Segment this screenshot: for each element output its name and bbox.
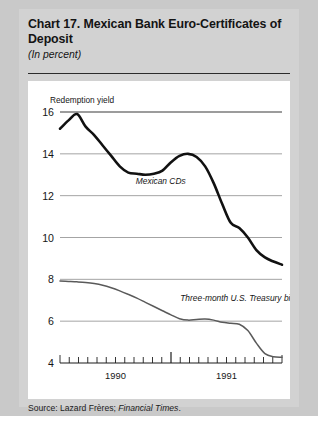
y-tick-label: 10 [42,232,54,244]
chart-figure: Chart 17. Mexican Bank Euro-Certificates… [0,0,318,416]
source-publication: Financial Times [118,403,178,413]
gridlines [60,112,282,321]
data-series-group [60,114,282,357]
title-block: Chart 17. Mexican Bank Euro-Certificates… [28,17,292,61]
y-axis-caption: Redemption yield [50,95,114,105]
chart-inner-card: Chart 17. Mexican Bank Euro-Certificates… [19,9,299,407]
x-axis-ticks [60,352,282,363]
y-tick-label: 14 [42,148,54,160]
source-suffix: . [178,403,180,413]
chart-subtitle: (In percent) [28,49,292,61]
y-tick-label: 8 [48,273,54,285]
source-prefix: Source: Lazard Frères; [28,403,118,413]
y-tick-label: 6 [48,315,54,327]
page-title: Chart 17. Mexican Bank Euro-Certificates… [28,17,292,47]
source-note: Source: Lazard Frères; Financial Times. [28,403,181,413]
series-label-mexican-cds: Mexican CDs [136,176,187,186]
y-tick-label: 16 [42,106,54,118]
x-axis-tick-labels: 19901991 [105,370,237,381]
title-divider [28,73,290,74]
series-line-mexican-cds [60,114,282,265]
y-tick-label: 12 [42,190,54,202]
line-chart: 46810121416 19901991 Redemption yield Me… [28,81,290,399]
y-axis-tick-labels: 46810121416 [42,106,54,369]
x-tick-label: 1990 [105,370,126,381]
y-tick-label: 4 [48,357,54,369]
x-tick-label: 1991 [216,370,237,381]
series-label-treasury-bill: Three-month U.S. Treasury bill [180,293,290,303]
plot-panel: 46810121416 19901991 Redemption yield Me… [28,81,290,399]
